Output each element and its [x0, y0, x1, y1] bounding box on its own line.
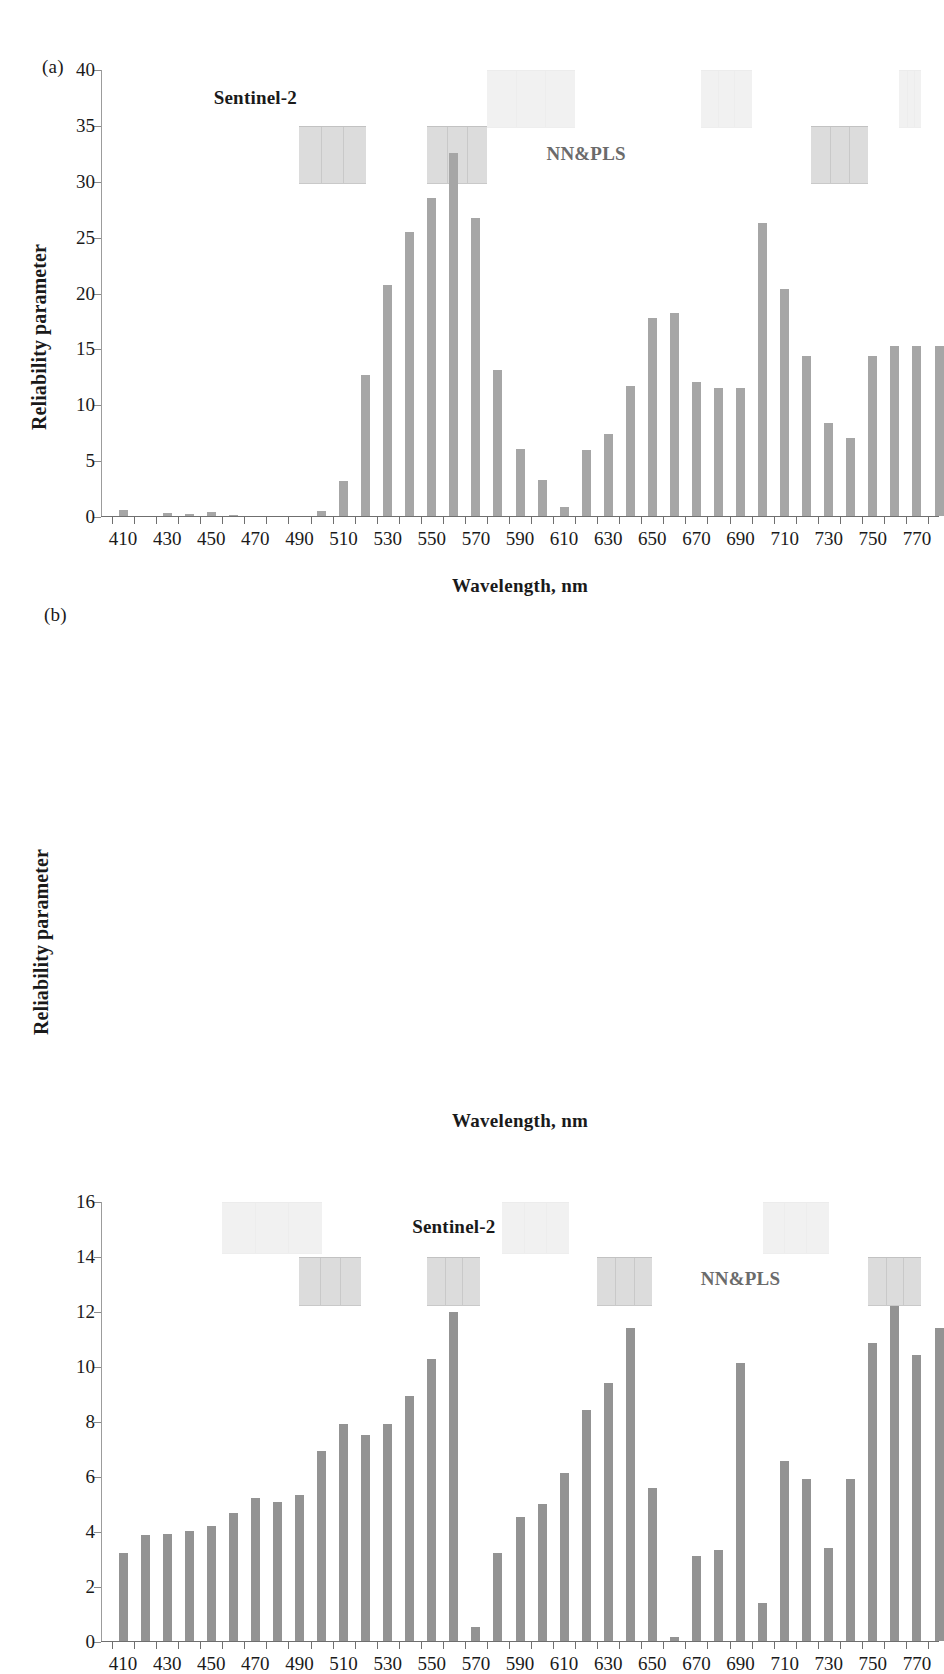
bar [383, 1424, 392, 1641]
x-tick-label: 650 [638, 528, 667, 550]
x-tick-mark [685, 1642, 686, 1649]
bar [935, 1328, 944, 1642]
y-tick-mark [94, 1532, 101, 1533]
x-tick-mark [156, 1642, 157, 1649]
x-tick-mark [663, 517, 664, 524]
x-tick-mark [774, 517, 775, 524]
x-tick-mark [421, 517, 422, 524]
bar [648, 1488, 657, 1641]
y-tick-mark [94, 405, 101, 406]
x-tick-mark [752, 1642, 753, 1649]
x-tick-mark [619, 1642, 620, 1649]
band-seam [447, 127, 448, 183]
bar [560, 507, 569, 516]
bar [516, 449, 525, 516]
x-tick-mark [399, 1642, 400, 1649]
y-tick-label: 14 [76, 1246, 95, 1268]
bar [648, 318, 657, 516]
annotation-sentinel-2: Sentinel-2 [412, 1216, 495, 1238]
x-tick-mark [134, 1642, 135, 1649]
x-tick-mark [311, 1642, 312, 1649]
x-tick-mark [311, 517, 312, 524]
x-tick-mark [641, 1642, 642, 1649]
x-tick-mark [112, 1642, 113, 1649]
band-seam [718, 71, 719, 127]
bar [229, 1513, 238, 1641]
bar [405, 1396, 414, 1641]
bar [471, 218, 480, 516]
band-seam [516, 71, 517, 127]
bar [604, 434, 613, 516]
y-tick-label: 25 [76, 227, 95, 249]
x-tick-mark [796, 1642, 797, 1649]
bar [119, 510, 128, 516]
x-tick-label: 730 [814, 1653, 843, 1674]
x-tick-mark [244, 1642, 245, 1649]
x-tick-label: 550 [418, 528, 447, 550]
y-tick-mark [94, 1422, 101, 1423]
chart-panel-a: (a) Reliability parameter 05101520253035… [0, 0, 942, 590]
panel-b-x-axis-label: Wavelength, nm [452, 1110, 588, 1132]
bar [890, 346, 899, 516]
bar [692, 382, 701, 516]
x-tick-mark [553, 517, 554, 524]
y-tick-mark [94, 182, 101, 183]
x-tick-mark [178, 517, 179, 524]
bar [582, 450, 591, 516]
x-tick-mark [862, 1642, 863, 1649]
x-tick-mark [443, 517, 444, 524]
bar [736, 1363, 745, 1641]
band-seam [255, 1203, 256, 1253]
band-seam [546, 1203, 547, 1253]
x-tick-mark [288, 1642, 289, 1649]
x-tick-mark [553, 1642, 554, 1649]
x-tick-mark [619, 517, 620, 524]
x-tick-mark [509, 1642, 510, 1649]
y-tick-label: 20 [76, 283, 95, 305]
y-tick-label: 16 [76, 1191, 95, 1213]
x-tick-mark [575, 1642, 576, 1649]
x-tick-mark [928, 517, 929, 524]
bar [427, 1359, 436, 1641]
bar [383, 285, 392, 516]
sentinel-band-marker [222, 1202, 321, 1254]
bar [361, 1435, 370, 1641]
x-tick-label: 730 [814, 528, 843, 550]
panel-b-tag: (b) [44, 604, 67, 626]
x-tick-mark [134, 517, 135, 524]
sentinel-band-marker [763, 1202, 829, 1254]
y-axis-line-a [101, 70, 102, 517]
x-tick-mark [730, 517, 731, 524]
bar [229, 515, 238, 516]
bar [912, 346, 921, 516]
x-tick-mark [884, 517, 885, 524]
band-seam [320, 1258, 321, 1305]
x-tick-mark [531, 1642, 532, 1649]
bar [207, 1526, 216, 1642]
bar [163, 513, 172, 516]
band-seam [806, 1203, 807, 1253]
y-tick-mark [94, 517, 101, 518]
y-tick-mark [94, 126, 101, 127]
x-axis-line-a [101, 516, 939, 517]
band-seam [914, 71, 915, 127]
y-tick-mark [94, 1642, 101, 1643]
x-tick-label: 630 [594, 528, 623, 550]
bar [670, 313, 679, 516]
bar [758, 223, 767, 516]
bar [427, 198, 436, 516]
y-tick-label: 8 [86, 1411, 96, 1433]
x-tick-label: 710 [770, 528, 799, 550]
x-tick-mark [641, 517, 642, 524]
y-axis-line-b [101, 1202, 102, 1642]
y-tick-mark [94, 349, 101, 350]
x-tick-label: 430 [153, 1653, 182, 1674]
x-tick-label: 530 [373, 1653, 402, 1674]
panel-a-y-axis-label: Reliability parameter [28, 244, 51, 430]
x-tick-mark [531, 517, 532, 524]
bar [736, 388, 745, 517]
x-tick-mark [730, 1642, 731, 1649]
x-tick-mark [465, 517, 466, 524]
sentinel-band-marker [597, 1257, 652, 1306]
y-tick-mark [94, 461, 101, 462]
